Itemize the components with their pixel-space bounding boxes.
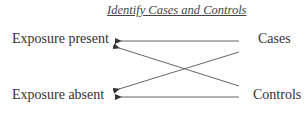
arrow-controls-to-exposure-present	[119, 48, 239, 86]
arrow-cases-to-exposure-absent	[119, 52, 239, 89]
arrows-layer	[0, 0, 308, 113]
